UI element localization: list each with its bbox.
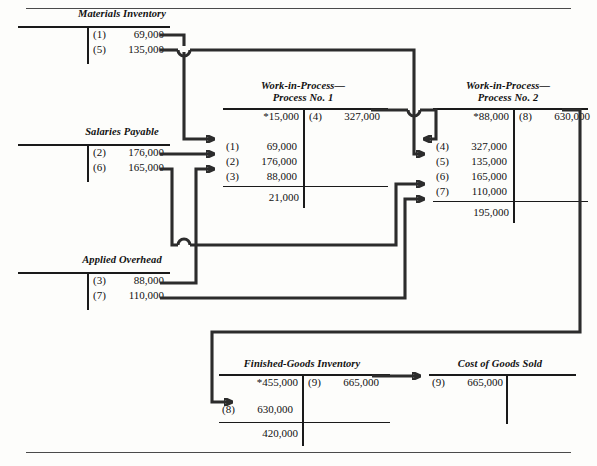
wire-entry-8-wip2-to-finished-goods <box>212 110 580 402</box>
wire-entry-6-hop <box>178 239 190 245</box>
wire-entry-5-to-wip2 <box>190 50 424 154</box>
wire-entry-7-overhead-to-wip2 <box>160 199 424 298</box>
wire-entry-4-to-wip2 <box>420 110 436 139</box>
wire-entry-3-overhead-to-wip1 <box>160 169 214 283</box>
connector-layer <box>0 0 597 466</box>
wire-entry-1-materials-to-wip1 <box>160 35 184 46</box>
diagram-canvas: Materials Inventory (1)69,000 (5)135,000… <box>0 0 597 466</box>
wire-entry-6-to-wip2 <box>190 184 424 245</box>
wire-entry-6-salaries-down <box>160 169 178 245</box>
wire-entry-1-down-to-wip1 <box>184 52 214 139</box>
